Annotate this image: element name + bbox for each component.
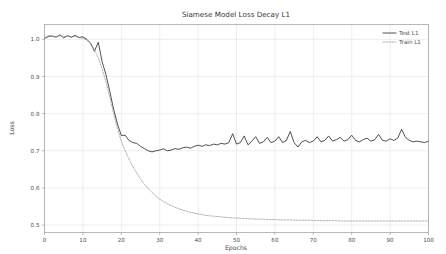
x-tick-label: 90 [387, 237, 395, 243]
y-tick-label: 1.0 [31, 36, 40, 42]
x-tick-label: 40 [195, 237, 203, 243]
y-tick-label: 0.5 [31, 222, 40, 228]
y-tick-label: 0.7 [31, 148, 40, 154]
y-tick-label: 0.9 [31, 74, 40, 80]
x-tick-label: 0 [43, 237, 47, 243]
x-tick-label: 30 [156, 237, 164, 243]
loss-decay-line-chart: Siamese Model Loss Decay L1 010203040506… [0, 0, 446, 254]
x-tick-label: 80 [348, 237, 356, 243]
y-axis-title: Loss [8, 121, 15, 135]
x-tick-label: 10 [79, 237, 87, 243]
x-tick-label: 70 [310, 237, 318, 243]
x-tick-label: 60 [271, 237, 279, 243]
figure-background [0, 0, 446, 254]
x-tick-label: 20 [118, 237, 126, 243]
chart-figure: Siamese Model Loss Decay L1 010203040506… [0, 0, 446, 254]
legend-label: Test L1 [398, 30, 419, 36]
legend-label: Train L1 [398, 39, 421, 45]
x-axis-title: Epochs [225, 244, 247, 252]
y-tick-label: 0.8 [31, 111, 40, 117]
x-tick-label: 100 [423, 237, 434, 243]
y-tick-label: 0.6 [31, 185, 40, 191]
chart-title: Siamese Model Loss Decay L1 [182, 10, 290, 19]
x-tick-label: 50 [233, 237, 241, 243]
